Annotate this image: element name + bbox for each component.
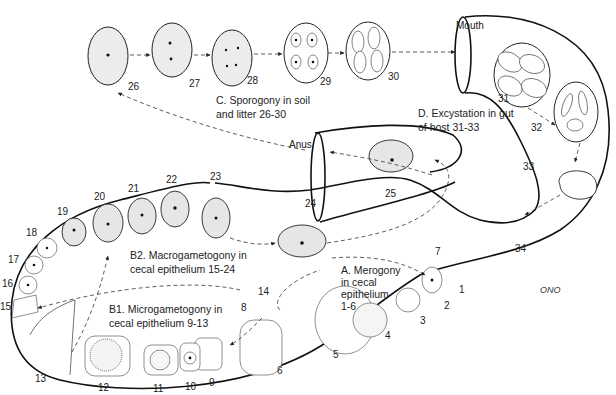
stage-b2-caption-1: B2. Macrogametogony in <box>130 249 247 261</box>
anus-label: Anus <box>289 139 312 150</box>
number-1: 1 <box>459 284 465 295</box>
number-28: 28 <box>247 75 259 86</box>
number-29: 29 <box>320 76 332 87</box>
excysting-oocyst-33 <box>559 171 597 199</box>
number-7: 7 <box>435 246 441 257</box>
number-31: 31 <box>498 93 510 104</box>
number-25: 25 <box>385 188 397 199</box>
stage-a-caption-1: A. Merogony <box>341 264 401 276</box>
number-19: 19 <box>57 206 69 217</box>
stage-d-caption-2: of host 31-33 <box>418 121 479 133</box>
number-10: 10 <box>185 381 197 392</box>
number-2: 2 <box>444 300 450 311</box>
artist-signature: ONO <box>540 285 561 295</box>
stage-a-caption-3: epithelium <box>341 288 389 300</box>
number-27: 27 <box>189 78 201 89</box>
number-34: 34 <box>515 243 527 254</box>
sporogony-oocysts <box>88 22 455 86</box>
oocyst-32 <box>554 82 598 142</box>
stage-c-caption-2: and litter 26-30 <box>216 108 286 120</box>
number-23: 23 <box>210 171 222 182</box>
stage-b1-caption-1: B1. Microgametogony in <box>109 303 222 315</box>
number-14: 14 <box>258 286 270 297</box>
number-32: 32 <box>531 122 543 133</box>
number-4: 4 <box>385 330 391 341</box>
number-33: 33 <box>523 161 535 172</box>
number-13: 13 <box>35 373 47 384</box>
stage-d-caption-1: D. Excystation in gut <box>418 107 514 119</box>
number-6: 6 <box>277 365 283 376</box>
oocyst-30 <box>346 22 390 80</box>
number-26: 26 <box>128 81 140 92</box>
mouth-label: Mouth <box>456 20 484 31</box>
number-18: 18 <box>26 227 38 238</box>
diagram-canvas: Mouth Anus ONO C. Sporogony in soil and … <box>0 0 616 395</box>
oocyst-28 <box>212 30 252 86</box>
zygote-25 <box>369 140 413 172</box>
number-30: 30 <box>388 71 400 82</box>
stage-a-caption-4: 1-6 <box>341 300 356 312</box>
eimeria-life-cycle-diagram: Mouth Anus ONO C. Sporogony in soil and … <box>0 0 616 395</box>
number-8: 8 <box>241 302 247 313</box>
number-22: 22 <box>166 174 178 185</box>
stage-b2-caption-2: cecal epithelium 15-24 <box>130 263 235 275</box>
number-5: 5 <box>333 349 339 360</box>
number-20: 20 <box>94 191 106 202</box>
number-3: 3 <box>420 315 426 326</box>
number-21: 21 <box>128 183 140 194</box>
stage-b1-caption-2: cecal epithelium 9-13 <box>109 317 208 329</box>
number-12: 12 <box>98 382 110 393</box>
number-11: 11 <box>153 383 164 394</box>
oocyst-29 <box>284 23 328 83</box>
excystation-oocysts <box>494 43 598 215</box>
number-17: 17 <box>8 254 20 265</box>
number-16: 16 <box>2 278 14 289</box>
number-15: 15 <box>0 301 12 312</box>
macrogamete-24 <box>278 225 326 257</box>
oocyst-27 <box>152 23 192 77</box>
number-9: 9 <box>209 377 215 388</box>
number-24: 24 <box>305 198 317 209</box>
stage-a-caption-2: in cecal <box>341 276 377 288</box>
stage-c-caption-1: C. Sporogony in soil <box>216 94 310 106</box>
